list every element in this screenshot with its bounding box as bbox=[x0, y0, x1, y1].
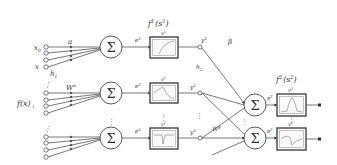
ellipsis: ⋮ bbox=[160, 114, 167, 122]
ellipsis: ⋮ bbox=[196, 112, 203, 120]
activation-box-2 bbox=[150, 83, 178, 103]
x0-label: x0 bbox=[34, 44, 41, 53]
input-node bbox=[44, 51, 48, 55]
sigma-icon: Σ bbox=[250, 131, 259, 146]
layer2-title: f2(s2) bbox=[275, 74, 297, 84]
output-node-2 bbox=[318, 138, 321, 141]
neural-network-diagram: x0 x h1 a ⋮ f(x)i Wa ⋮ bbox=[0, 0, 337, 165]
v1-label: v1 bbox=[161, 30, 166, 36]
h2-label: h2 bbox=[196, 63, 203, 72]
activation-box-1 bbox=[150, 37, 178, 58]
fx-label: f(x)i bbox=[16, 99, 35, 109]
activation-box-3 bbox=[150, 128, 178, 149]
sigma-icon: Σ bbox=[106, 40, 115, 55]
sigma-icon: Σ bbox=[250, 98, 259, 113]
y2-label: y1 bbox=[189, 83, 196, 92]
input-node bbox=[44, 65, 48, 69]
y1-label: y1 bbox=[200, 36, 207, 45]
output-node-1 bbox=[318, 104, 321, 107]
input-node bbox=[44, 58, 48, 62]
output-activation-box-2 bbox=[277, 128, 306, 150]
s2-label: s2 bbox=[267, 127, 273, 135]
ellipsis: ⋮ bbox=[44, 125, 51, 133]
ellipsis: ⋮ bbox=[241, 118, 248, 126]
ellipsis: ⋮ bbox=[108, 118, 115, 126]
x-label: x bbox=[35, 63, 39, 71]
e1-label: e1 bbox=[135, 36, 141, 44]
sigma-icon: Σ bbox=[106, 131, 115, 146]
input-group-3 bbox=[44, 135, 100, 159]
a-label: a bbox=[68, 38, 72, 46]
input-node bbox=[44, 45, 48, 49]
v2-label: v1 bbox=[161, 76, 166, 82]
h1-label: h1 bbox=[50, 70, 57, 79]
ellipsis: ⋮ bbox=[288, 116, 295, 124]
ellipsis: ⋮ bbox=[44, 81, 51, 89]
wbeta-label: Wβ bbox=[212, 125, 221, 133]
s1-label: s2 bbox=[267, 94, 273, 102]
layer1-title: f1(s1) bbox=[147, 18, 169, 28]
input-group-1 bbox=[44, 45, 100, 69]
sigma-icon: Σ bbox=[106, 86, 115, 101]
ei-label: e1 bbox=[135, 127, 141, 135]
wa-label: Wa bbox=[66, 83, 76, 92]
output-activation-box-1 bbox=[277, 94, 306, 116]
beta-label: β bbox=[227, 38, 232, 46]
yi-label: y1 bbox=[189, 128, 196, 137]
input-group-2 bbox=[44, 91, 100, 115]
v2-1-label: v2 bbox=[288, 87, 294, 93]
e2-label: e1 bbox=[135, 82, 141, 90]
